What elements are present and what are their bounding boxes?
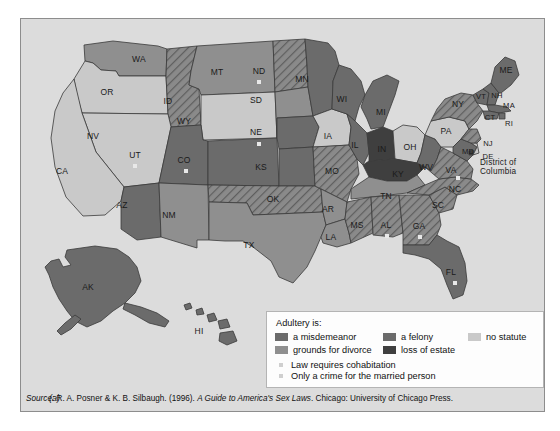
legend-label-felony: a felony [401,332,433,342]
legend-label-loss-of-estate: loss of estate [401,345,455,355]
legend-swatch-grounds-for-divorce [275,346,288,354]
source-title: A Guide to America's Sex Laws [197,394,311,403]
legend-item-loss-of-estate[interactable]: loss of estate [383,345,455,355]
state-marker-GA [418,235,422,239]
state-AL[interactable] [371,195,403,237]
legend-note-married-person: Only a crime for the married person [275,371,535,381]
legend-swatch-no-statute [468,333,481,341]
legend-label-misdemeanor: a misdemeanor [293,332,356,342]
state-marker-AL [385,234,389,238]
state-HI-2[interactable] [196,308,204,315]
map-panel: WAORIDMTWYNVUTCACOAZNMNDSDNEKSOKTXMNIAMO… [20,18,545,412]
legend-label-no-statute: no statute [486,332,526,342]
state-AK-tail[interactable] [57,315,81,335]
state-HI-3[interactable] [207,313,217,322]
legend-marker-cohabitation [279,363,283,367]
state-marker-CO [184,169,188,173]
legend-title: Adultery is: [276,318,535,328]
state-CO[interactable] [208,138,279,186]
state-KS[interactable] [279,147,315,186]
source-text: R. A. Posner & K. B. Silbaugh. (1996). [54,394,197,403]
state-TX[interactable] [209,202,326,283]
source-prefix: Source: [26,394,54,403]
legend-row-1: a misdemeanor a felony no statute [275,332,535,342]
legend-note-label-cohabitation: Law requires cohabitation [291,360,396,370]
legend-note-cohabitation: Law requires cohabitation [275,360,535,370]
legend-swatch-felony [383,333,396,341]
state-WY[interactable] [201,92,277,140]
state-MT[interactable] [189,41,275,95]
state-marker-FL [453,281,457,285]
legend-item-grounds-for-divorce[interactable]: grounds for divorce [275,345,383,355]
state-IA[interactable] [313,109,351,147]
state-FL[interactable] [403,235,467,299]
state-AK[interactable] [45,246,141,327]
state-RI[interactable] [499,113,505,119]
state-ND[interactable] [273,39,308,92]
state-marker-NE [257,142,261,146]
state-NE[interactable] [277,116,319,149]
state-HI-5[interactable] [219,331,237,345]
legend-swatch-loss-of-estate [383,346,396,354]
legend-label-grounds-for-divorce: grounds for divorce [293,345,372,355]
legend-row-2: grounds for divorce loss of estate [275,345,535,355]
state-AZ[interactable] [121,183,161,240]
map-legend: Adultery is: a misdemeanor a felony no s… [266,311,544,388]
legend-marker-married-person [279,374,283,378]
legend-item-felony[interactable]: a felony [383,332,468,342]
state-HI-1[interactable] [184,303,192,310]
state-CT[interactable] [483,111,499,119]
state-AK-pen[interactable] [123,303,169,327]
legend-item-misdemeanor[interactable]: a misdemeanor [275,332,383,342]
legend-item-no-statute[interactable]: no statute [468,332,526,342]
source-citation: Source: R. A. Posner & K. B. Silbaugh. (… [26,394,541,403]
us-map: WAORIDMTWYNVUTCACOAZNMNDSDNEKSOKTXMNIAMO… [21,19,544,411]
state-MI[interactable] [361,75,399,129]
legend-swatch-misdemeanor [275,333,288,341]
state-marker-ND [257,80,261,84]
state-marker-VA [456,176,460,180]
state-NM[interactable] [159,183,209,248]
state-DC[interactable] [469,150,473,155]
figure-panel-a: WAORIDMTWYNVUTCACOAZNMNDSDNEKSOKTXMNIAMO… [0,0,560,431]
state-marker-UT [133,164,137,168]
source-suffix: . Chicago: University of Chicago Press. [311,394,453,403]
legend-note-label-married-person: Only a crime for the married person [291,371,436,381]
state-ME[interactable] [491,57,519,93]
state-HI-4[interactable] [218,319,230,329]
state-IN[interactable] [367,127,395,161]
